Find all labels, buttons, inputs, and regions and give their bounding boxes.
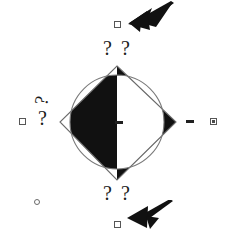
question-mark-top-right: ?	[121, 38, 130, 58]
question-mark-left-lower: ?	[38, 108, 47, 128]
question-mark-top-left: ?	[103, 38, 112, 58]
square-marker-bottom	[114, 221, 121, 228]
square-marker-left	[19, 118, 26, 125]
question-mark-bottom-left: ?	[103, 183, 112, 203]
right-dash-mark	[186, 120, 194, 123]
circle-marker-bottom-left	[34, 199, 40, 205]
diagram-canvas: ? ? ? ? ? ?	[0, 0, 227, 236]
arrow-down-left-icon	[127, 1, 175, 34]
center-dash-mark	[115, 121, 123, 124]
question-mark-bottom-right: ?	[121, 183, 130, 203]
arrow-up-left-icon	[126, 200, 174, 233]
square-marker-right	[210, 118, 217, 125]
black-crescent-shape	[70, 66, 176, 180]
square-marker-top	[114, 21, 121, 28]
